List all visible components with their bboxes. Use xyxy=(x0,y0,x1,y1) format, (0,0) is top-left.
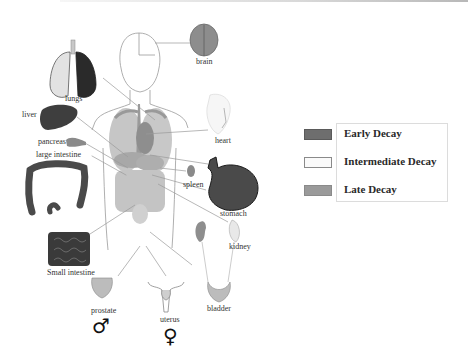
intermediate-decay-swatch-icon xyxy=(304,157,332,168)
legend-item-late-decay xyxy=(300,183,332,197)
large-intestine-icon xyxy=(29,156,126,212)
late-decay-swatch-icon xyxy=(304,185,332,196)
organ-decay-diagram: brain lungs liver pancreas large intesti… xyxy=(0,0,300,355)
label-bladder: bladder xyxy=(207,304,231,313)
label-lungs: lungs xyxy=(65,94,82,103)
label-spleen: spleen xyxy=(183,180,203,189)
legend-item-early-decay xyxy=(300,127,332,141)
label-uterus: uterus xyxy=(160,315,180,324)
legend-label-early-decay: Early Decay xyxy=(344,127,402,139)
label-pancreas: pancreas xyxy=(38,137,66,146)
torso-organs xyxy=(109,104,172,224)
prostate-icon xyxy=(92,246,140,298)
legend-item-intermediate-decay xyxy=(300,155,332,169)
label-brain: brain xyxy=(196,57,212,66)
male-symbol-icon: ♂ xyxy=(92,316,110,336)
legend: Early Decay Intermediate Decay Late Deca… xyxy=(300,120,450,206)
label-kidney: kidney xyxy=(229,242,251,251)
small-intestine-icon xyxy=(48,205,135,266)
label-heart: heart xyxy=(215,136,231,145)
uterus-icon xyxy=(146,246,184,312)
body-illustration xyxy=(0,0,300,355)
label-small-intestine: Small intestine xyxy=(47,268,95,277)
legend-label-intermediate-decay: Intermediate Decay xyxy=(344,155,437,167)
female-symbol-icon: ♀ xyxy=(163,326,178,346)
legend-label-late-decay: Late Decay xyxy=(344,183,397,195)
label-liver: liver xyxy=(22,110,37,119)
early-decay-swatch-icon xyxy=(304,129,332,140)
label-stomach: stomach xyxy=(220,209,247,218)
label-large-intestine: large intestine xyxy=(36,150,81,159)
brain-icon xyxy=(155,24,218,56)
spleen-icon xyxy=(160,165,195,177)
